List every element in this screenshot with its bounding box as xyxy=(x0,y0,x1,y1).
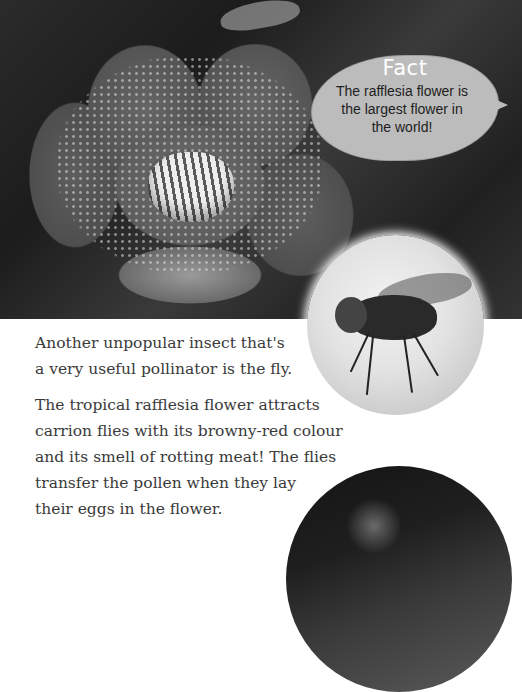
text-line: Another unpopular insect that's xyxy=(35,330,455,356)
paragraph-1: Another unpopular insect that's a very u… xyxy=(35,330,455,382)
fact-title: Fact xyxy=(312,56,498,80)
fly-head xyxy=(335,297,367,333)
fly-on-flower-photo xyxy=(286,466,512,692)
text-line: The tropical rafflesia flower attracts xyxy=(35,392,455,418)
fact-line: the largest flower in xyxy=(316,100,488,118)
fact-text: The rafflesia flower is the largest flow… xyxy=(316,82,488,136)
text-line: a very useful pollinator is the fly. xyxy=(35,356,455,382)
fact-line: The rafflesia flower is xyxy=(316,82,488,100)
fact-line: the world! xyxy=(316,118,488,136)
flower-center xyxy=(148,152,234,222)
text-line: carrion flies with its browny-red colour xyxy=(35,418,455,444)
photo-highlight xyxy=(344,496,404,556)
